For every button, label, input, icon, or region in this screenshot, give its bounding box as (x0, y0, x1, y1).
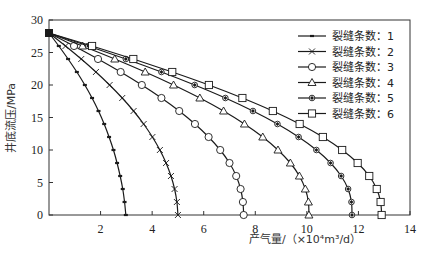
legend-label: 裂缝条数：3 (332, 60, 394, 74)
legend-label: 裂缝条数：5 (332, 91, 394, 105)
legend-marker-icon (309, 95, 315, 101)
y-tick-label: 5 (37, 176, 43, 190)
y-tick-label: 20 (31, 78, 43, 92)
legend-marker-icon (308, 63, 315, 70)
x-tick-label: 2 (98, 222, 104, 236)
start-point-marker (45, 29, 53, 37)
y-axis-title: 井底流压/MPa (4, 83, 18, 153)
x-tick-label: 6 (201, 222, 207, 236)
x-tick-label: 14 (404, 222, 416, 236)
legend-item-6: 裂缝条数：6 (298, 107, 394, 121)
legend: 裂缝条数：1裂缝条数：2裂缝条数：3裂缝条数：4裂缝条数：5裂缝条数：6 (298, 29, 394, 121)
y-tick-label: 10 (31, 143, 43, 157)
y-tick-label: 25 (31, 46, 43, 60)
series-line (49, 33, 244, 215)
legend-item-4: 裂缝条数：4 (298, 76, 394, 90)
x-tick-label: 4 (149, 222, 155, 236)
chart: 0510152025302468101214 裂缝条数：1裂缝条数：2裂缝条数：… (0, 0, 433, 261)
legend-item-5: 裂缝条数：5 (298, 91, 394, 105)
legend-label: 裂缝条数：6 (332, 107, 394, 121)
legend-label: 裂缝条数：1 (332, 29, 394, 43)
legend-marker-icon (308, 110, 315, 117)
legend-label: 裂缝条数：2 (332, 45, 394, 59)
series-markers (70, 42, 247, 218)
series-4 (49, 33, 313, 218)
legend-item-2: 裂缝条数：2 (298, 45, 394, 59)
x-axis-title: 产气量/（×10⁴m³/d） (249, 232, 361, 246)
y-tick-label: 0 (37, 208, 43, 222)
series-3 (49, 33, 247, 219)
series-line (49, 33, 309, 215)
y-tick-label: 30 (31, 13, 43, 27)
legend-label: 裂缝条数：4 (332, 76, 394, 90)
legend-item-1: 裂缝条数：1 (298, 29, 394, 43)
legend-item-3: 裂缝条数：3 (298, 60, 394, 74)
y-tick-label: 15 (31, 111, 43, 125)
